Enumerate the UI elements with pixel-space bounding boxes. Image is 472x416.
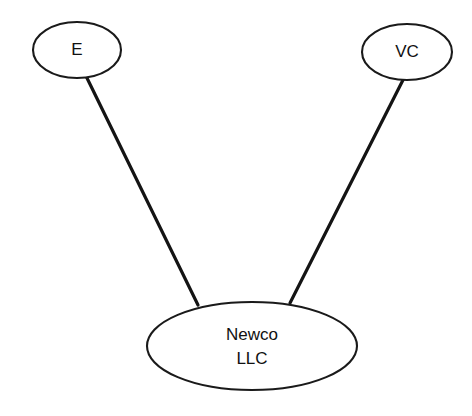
node-label-vc: VC — [395, 42, 419, 61]
node-ellipse-newco-llc[interactable] — [147, 302, 357, 390]
node-label-e: E — [71, 40, 82, 59]
diagram-canvas: E VC Newco LLC — [0, 0, 472, 416]
ownership-diagram: E VC Newco LLC — [0, 0, 472, 416]
node-label-newco-line1: Newco — [226, 325, 278, 344]
edge-vc-to-newco — [290, 78, 404, 303]
node-label-newco-line2: LLC — [236, 349, 267, 368]
edge-e-to-newco — [86, 76, 198, 305]
